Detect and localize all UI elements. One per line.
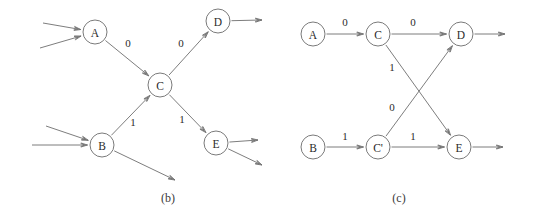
state-node-C[interactable]: C bbox=[366, 22, 390, 46]
state-node-A[interactable]: A bbox=[83, 20, 107, 44]
state-node-label: E bbox=[455, 142, 462, 154]
state-node-D[interactable]: D bbox=[449, 22, 473, 46]
edge-label-B-to-Cp: 1 bbox=[342, 130, 348, 142]
state-node-B[interactable]: B bbox=[301, 135, 325, 159]
stub-out-B-3 bbox=[114, 151, 175, 180]
edge-C-to-E bbox=[386, 45, 451, 135]
edge-label-B-to-C: 1 bbox=[130, 116, 136, 128]
edge-label-Cp-to-E: 1 bbox=[410, 130, 416, 142]
figure-root: ABCDE0011(b)ACDBC'E001110(c) bbox=[0, 0, 533, 219]
state-node-label: C bbox=[374, 29, 382, 41]
edge-label-C-to-E: 1 bbox=[179, 113, 185, 125]
state-node-C-prime[interactable]: C' bbox=[366, 135, 390, 159]
state-node-label: B bbox=[98, 140, 106, 152]
stub-in-A-1 bbox=[40, 36, 81, 48]
panel-b-nodes: ABCDE bbox=[83, 9, 230, 157]
state-node-label: C bbox=[156, 80, 164, 92]
state-node-B[interactable]: B bbox=[90, 133, 114, 157]
state-node-label: B bbox=[309, 142, 317, 154]
edge-label-A-to-C: 0 bbox=[125, 37, 131, 49]
panel-c-edges bbox=[327, 32, 506, 149]
panel-c-nodes: ACDBC'E bbox=[301, 22, 473, 159]
panel-caption: (b) bbox=[161, 191, 175, 205]
state-node-E[interactable]: E bbox=[447, 135, 471, 159]
panel-b-edges bbox=[32, 18, 262, 180]
state-node-label: D bbox=[214, 16, 222, 28]
stub-out-E-2 bbox=[228, 149, 262, 165]
state-node-label: A bbox=[309, 29, 318, 41]
state-node-C[interactable]: C bbox=[148, 73, 172, 97]
panel-b: ABCDE0011(b) bbox=[32, 9, 262, 205]
edge-label-C-to-D: 0 bbox=[410, 16, 416, 28]
state-node-D[interactable]: D bbox=[206, 9, 230, 33]
state-node-label: A bbox=[91, 27, 100, 39]
panel-caption: (c) bbox=[392, 191, 405, 205]
edge-C-to-D bbox=[169, 32, 208, 75]
state-node-label: E bbox=[212, 138, 219, 150]
edge-C-to-E bbox=[169, 95, 206, 133]
state-node-E[interactable]: E bbox=[204, 131, 228, 155]
state-node-label: D bbox=[457, 29, 465, 41]
edge-label-C-to-D: 0 bbox=[178, 37, 184, 49]
panel-c: ACDBC'E001110(c) bbox=[301, 16, 505, 205]
state-node-label: C' bbox=[373, 142, 383, 154]
edge-label-A-to-C: 0 bbox=[342, 16, 348, 28]
edge-label-Cp-to-D: 0 bbox=[389, 101, 395, 113]
automaton-figure: ABCDE0011(b)ACDBC'E001110(c) bbox=[0, 0, 533, 219]
state-node-A[interactable]: A bbox=[301, 22, 325, 46]
stub-in-B-2 bbox=[46, 126, 88, 140]
edge-label-C-to-E: 1 bbox=[389, 61, 395, 73]
